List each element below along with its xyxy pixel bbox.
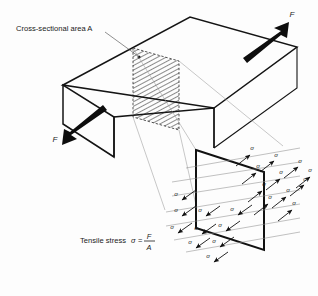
stress-label-right-0: σ — [250, 144, 254, 151]
stress-label-left-8: σ — [206, 252, 210, 259]
projection-line-top — [179, 61, 283, 146]
stress-label-right-5: σ — [303, 175, 307, 182]
cross-section-area — [133, 48, 179, 130]
stress-label-left-1: σ — [174, 206, 178, 213]
stress-flow-lines — [166, 148, 300, 252]
stress-arrows-right-group — [236, 155, 310, 221]
formula-prefix-label: Tensile stress — [80, 236, 126, 245]
prism-block — [63, 17, 297, 157]
projection-line-lower-left — [133, 117, 165, 210]
prism-top-face — [63, 17, 297, 108]
area-leader-line — [105, 32, 138, 56]
cross-section-area-label: Cross-sectional area A — [16, 24, 93, 33]
stress-label-right-8: σ — [308, 166, 312, 173]
stress-label-right-10: σ — [268, 193, 272, 200]
stress-label-right-7: σ — [286, 186, 290, 193]
stress-plane-outline — [196, 150, 264, 250]
stress-label-left-3: σ — [170, 223, 174, 230]
stress-label-right-2: σ — [298, 157, 302, 164]
stress-label-left-9: σ — [230, 205, 234, 212]
stress-labels-left: σσσσσσσσσσ — [170, 190, 234, 259]
force-label-upper-right: F — [290, 10, 296, 19]
formula-denominator-label: A — [146, 243, 152, 252]
stress-label-right-3: σ — [256, 162, 260, 169]
formula-numerator-label: F — [147, 232, 152, 241]
formula-equals-label: = — [138, 236, 143, 245]
stress-label-left-2: σ — [198, 206, 202, 213]
force-arrow-lower-left — [62, 105, 107, 145]
force-label-lower-left: F — [53, 135, 59, 144]
stress-label-left-6: σ — [188, 238, 192, 245]
stress-label-right-1: σ — [274, 151, 278, 158]
formula-group: Tensile stress σ = F A — [80, 232, 155, 252]
stress-label-left-5: σ — [218, 221, 222, 228]
cross-section-hatch — [133, 48, 179, 130]
stress-label-left-0: σ — [174, 190, 178, 197]
detached-stress-plane — [166, 148, 300, 252]
stress-label-left-4: σ — [194, 224, 198, 231]
figure-canvas: Cross-sectional area A F F Tensile stres… — [0, 0, 318, 296]
tensile-stress-figure: Cross-sectional area A F F Tensile stres… — [0, 0, 318, 296]
stress-label-right-6: σ — [262, 180, 266, 187]
stress-label-right-4: σ — [279, 168, 283, 175]
stress-label-left-7: σ — [212, 237, 216, 244]
formula-sigma-label: σ — [131, 236, 136, 245]
stress-label-right-9: σ — [292, 199, 296, 206]
prism-right-edge — [214, 47, 297, 148]
